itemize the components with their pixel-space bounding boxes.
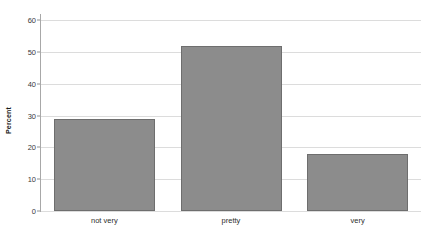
y-axis-tick-labels: 0102030405060	[16, 0, 38, 240]
y-axis-title-label: Percent	[6, 106, 13, 133]
y-tick-mark	[37, 147, 40, 148]
bar	[54, 119, 155, 211]
y-tick-label: 40	[28, 79, 36, 88]
y-tick-mark	[37, 52, 40, 53]
x-tick-label: pretty	[222, 216, 241, 225]
y-tick-label: 20	[28, 143, 36, 152]
plot-area	[41, 14, 421, 211]
y-tick-label: 10	[28, 175, 36, 184]
bar	[307, 154, 408, 211]
gridline	[41, 211, 421, 212]
y-axis-title: Percent	[2, 0, 16, 240]
y-tick-mark	[37, 179, 40, 180]
y-tick-label: 60	[28, 16, 36, 25]
y-tick-mark	[37, 20, 40, 21]
y-tick-mark	[37, 115, 40, 116]
y-tick-mark	[37, 83, 40, 84]
y-tick-label: 30	[28, 111, 36, 120]
y-tick-mark	[37, 211, 40, 212]
bar-chart: Percent 0102030405060 not veryprettyvery	[0, 0, 426, 240]
x-axis-tick-labels: not veryprettyvery	[41, 214, 421, 234]
bar	[181, 46, 282, 211]
gridline	[41, 20, 421, 21]
y-tick-label: 0	[32, 207, 36, 216]
x-tick-label: not very	[91, 216, 118, 225]
x-tick-label: very	[351, 216, 365, 225]
y-tick-label: 50	[28, 48, 36, 57]
